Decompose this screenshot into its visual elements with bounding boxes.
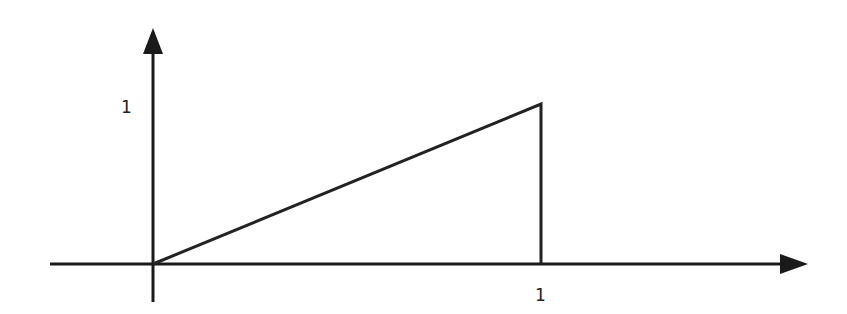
x-tick-label: 1 xyxy=(535,285,546,305)
plot-canvas xyxy=(0,0,847,314)
y-axis-arrow-icon xyxy=(143,28,163,54)
y-tick-label: 1 xyxy=(121,97,132,117)
x-axis-arrow-icon xyxy=(780,254,808,274)
density-line xyxy=(153,104,541,264)
